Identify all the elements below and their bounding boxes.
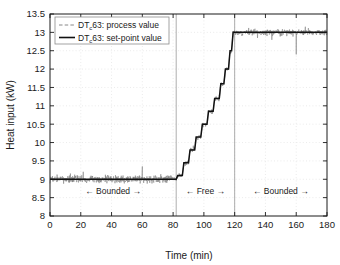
phase-annotation: ← Bounded → [253, 186, 309, 196]
x-axis-title: Time (min) [165, 250, 212, 261]
x-tick-label: 0 [47, 219, 52, 230]
y-tick-label: 13.5 [27, 8, 46, 19]
y-tick-label: 12 [34, 63, 45, 74]
heat-input-time-chart: 020406080100120140160180 88.599.51010.51… [0, 0, 340, 265]
chart-figure: 020406080100120140160180 88.599.51010.51… [0, 0, 340, 265]
x-tick-label: 60 [137, 219, 148, 230]
x-tick-label: 80 [168, 219, 179, 230]
x-tick-label: 40 [106, 219, 117, 230]
y-tick-label: 9.5 [32, 155, 45, 166]
x-tick-label: 180 [319, 219, 335, 230]
x-tick-label: 140 [258, 219, 274, 230]
y-tick-label: 13 [34, 27, 45, 38]
phase-annotation: ← Free → [186, 186, 225, 196]
y-tick-label: 12.5 [27, 45, 46, 56]
y-tick-label: 10.5 [27, 119, 46, 130]
y-tick-label: 11 [35, 100, 45, 111]
phase-annotations: ← Bounded →← Free →← Bounded → [85, 186, 309, 196]
y-tick-label: 10 [34, 137, 45, 148]
x-tick-label: 160 [288, 219, 304, 230]
y-tick-label: 8 [40, 210, 45, 221]
y-axis-title: Heat input (kW) [5, 80, 16, 149]
x-tick-label: 120 [227, 219, 243, 230]
chart-legend: DTc63: process valueDTc63: set-point val… [55, 17, 169, 44]
y-tick-label: 11.5 [27, 82, 45, 93]
x-tick-label: 20 [75, 219, 86, 230]
y-tick-label: 9 [40, 174, 45, 185]
y-tick-label: 8.5 [32, 192, 45, 203]
x-tick-label: 100 [196, 219, 212, 230]
phase-annotation: ← Bounded → [85, 186, 141, 196]
